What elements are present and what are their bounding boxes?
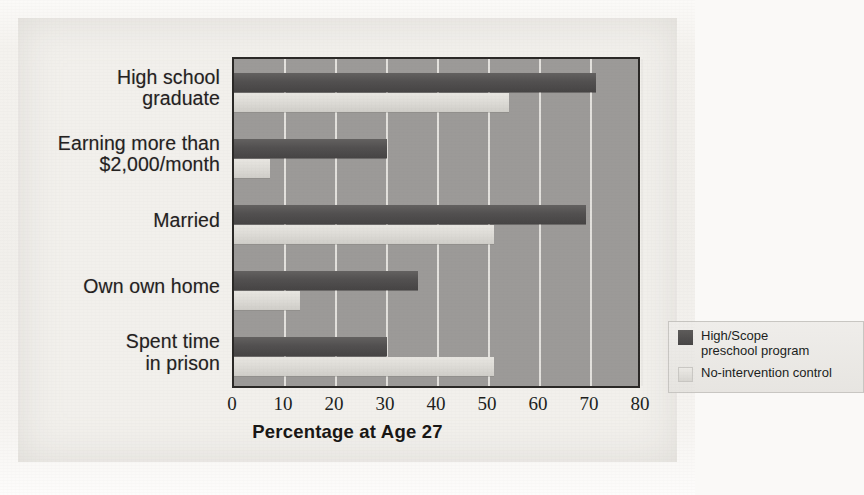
bar-control-1 xyxy=(234,159,270,178)
x-tick-30: 30 xyxy=(365,393,405,415)
bar-highscope-4 xyxy=(234,337,387,356)
category-label-earning-more-than: Earning more than $2,000/month xyxy=(58,133,220,176)
bar-control-3 xyxy=(234,291,300,310)
bar-highscope-0 xyxy=(234,73,596,92)
x-axis-title: Percentage at Age 27 xyxy=(0,421,695,443)
bar-highscope-1 xyxy=(234,139,387,158)
legend-item-no-intervention: No-intervention control xyxy=(678,366,855,382)
bar-control-2 xyxy=(234,225,494,244)
x-tick-40: 40 xyxy=(416,393,456,415)
plot-area: High/Scope preschool program No-interven… xyxy=(232,57,640,388)
x-tick-80: 80 xyxy=(620,393,660,415)
category-label-high-school-graduate: High school graduate xyxy=(117,67,220,110)
legend-item-high-scope: High/Scope preschool program xyxy=(678,329,855,358)
x-tick-60: 60 xyxy=(518,393,558,415)
x-tick-50: 50 xyxy=(467,393,507,415)
legend: High/Scope preschool program No-interven… xyxy=(668,321,864,393)
bar-control-0 xyxy=(234,93,509,112)
x-tick-10: 10 xyxy=(263,393,303,415)
legend-light-swatch-icon xyxy=(678,367,693,382)
x-tick-70: 70 xyxy=(569,393,609,415)
gridline-70 xyxy=(590,59,592,386)
bar-highscope-3 xyxy=(234,271,418,290)
legend-label-high-scope: High/Scope preschool program xyxy=(701,329,809,358)
bar-highscope-2 xyxy=(234,205,586,224)
gridline-80 xyxy=(641,59,643,386)
category-label-spent-time-in-prison: Spent time in prison xyxy=(126,331,220,374)
category-label-own-own-home: Own own home xyxy=(83,276,220,298)
x-tick-20: 20 xyxy=(314,393,354,415)
legend-dark-swatch-icon xyxy=(678,330,693,345)
bar-control-4 xyxy=(234,357,494,376)
category-label-married: Married xyxy=(153,210,220,232)
x-tick-0: 0 xyxy=(212,393,252,415)
legend-label-no-intervention: No-intervention control xyxy=(701,366,832,381)
